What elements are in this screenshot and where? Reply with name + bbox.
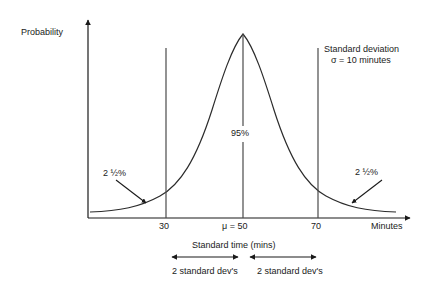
x-tick-label-mean: μ = 50 [222, 221, 247, 232]
x-axis-label: Minutes [371, 221, 403, 232]
central-area-percent-label: 95% [231, 128, 249, 139]
left-tail-leader-arrow [116, 180, 146, 203]
normal-distribution-figure: Probability Standard deviation σ = 10 mi… [0, 0, 439, 293]
right-tail-percent-label: 2 ½% [355, 167, 378, 178]
x-tick-label-30: 30 [159, 221, 169, 232]
dev-span-label-right: 2 standard dev's [257, 266, 323, 277]
standard-deviation-note-line1: Standard deviation [324, 44, 399, 55]
standard-time-span-label: Standard time (mins) [192, 240, 276, 251]
standard-deviation-note: Standard deviation σ = 10 minutes [324, 44, 399, 67]
x-tick-label-70: 70 [311, 221, 321, 232]
dev-span-label-left: 2 standard dev's [172, 266, 238, 277]
right-tail-leader-arrow [352, 180, 382, 203]
left-tail-percent-label: 2 ½% [103, 168, 126, 179]
y-axis-label: Probability [21, 27, 63, 38]
standard-deviation-note-line2: σ = 10 minutes [324, 55, 399, 66]
